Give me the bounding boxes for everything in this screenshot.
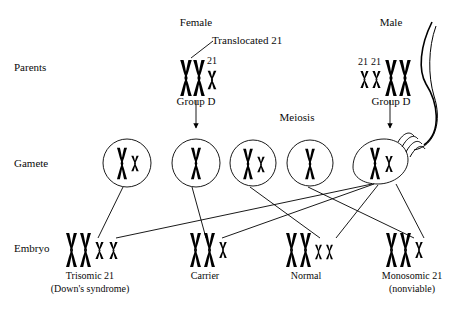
link-g1-to-trisomic [98, 187, 123, 238]
female-parent-header: Female [180, 16, 212, 29]
male-parent-header: Male [380, 16, 403, 29]
gamete-2-contents [191, 148, 201, 179]
male-chr-large-1 [385, 60, 397, 96]
link-sperm-to-normal [336, 185, 378, 238]
male-chr-21-label-a: 21 [358, 56, 368, 68]
embryo-carrier-caption-1: Carrier [191, 270, 219, 282]
embryo-monosomic-caption-1: Monosomic 21 [382, 270, 442, 282]
embryo-trisomic-karyotype [66, 233, 118, 267]
female-chr-21 [208, 71, 217, 89]
embryo-monosomic-caption-2: (nonviable) [389, 283, 435, 295]
male-group-d-label: Group D [372, 95, 411, 108]
link-g4-to-monosomic [308, 187, 414, 238]
sperm-chr-small [385, 156, 393, 172]
sperm-head [353, 139, 408, 184]
female-chr-21-label: 21 [207, 55, 217, 67]
sperm-tail [421, 22, 436, 145]
gamete-2-chr-large [191, 148, 201, 179]
female-chr-large-1 [180, 60, 192, 96]
translocated-21-annotation: Translocated 21 [212, 34, 282, 47]
gamete-1-chr-small [131, 156, 138, 172]
gamete-circle-3 [230, 140, 276, 186]
embryo-monosomic-karyotype [386, 233, 423, 267]
meiosis-label: Meiosis [280, 111, 315, 124]
female-chr-large-2 [193, 60, 205, 96]
embryo-trisomic-caption-1: Trisomic 21 [66, 270, 114, 282]
male-chr-21-a [360, 71, 368, 88]
male-chr-large-2 [399, 60, 411, 96]
embryo-normal-caption-1: Normal [291, 270, 322, 282]
sperm-ring-4 [410, 146, 425, 157]
female-group-d-label: Group D [177, 95, 216, 108]
row-label-gamete: Gamete [14, 157, 48, 170]
sperm-chr-large [370, 148, 380, 179]
gamete-1-chr-large [117, 148, 127, 179]
gamete-3-chr-small [257, 157, 264, 173]
row-label-embryo: Embryo [14, 242, 49, 255]
gamete-3-chr-large [243, 149, 253, 179]
embryo-normal-karyotype [286, 233, 333, 267]
row-label-parents: Parents [14, 61, 46, 74]
gamete-circle-1 [103, 139, 151, 187]
male-chr-21-b [372, 71, 380, 88]
gamete-3-contents [243, 149, 265, 179]
gamete-4-contents [305, 149, 315, 179]
gamete-1-contents [117, 148, 139, 179]
diagram-canvas: Parents Gamete Embryo Female Translocate… [0, 0, 467, 316]
link-g2-to-carrier [192, 187, 206, 238]
embryo-trisomic-caption-2: (Down's syndrome) [51, 283, 130, 295]
link-g3-to-normal [250, 187, 320, 238]
sperm-contents [370, 148, 393, 179]
diagram-graphics [0, 0, 467, 316]
male-chr-21-label-b: 21 [371, 56, 381, 68]
gamete-4-chr-large [305, 149, 315, 179]
embryo-carrier-karyotype [190, 233, 227, 267]
link-sperm-to-monosomic [396, 184, 424, 238]
